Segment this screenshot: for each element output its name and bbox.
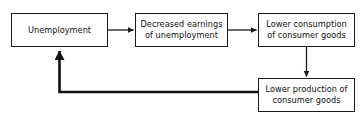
flowchart-diagram: Unemployment Decreased earnings of unemp… <box>0 0 361 118</box>
node-lower-consumption: Lower consumption of consumer goods <box>258 13 355 47</box>
edge-lower-production-to-unemployment <box>60 51 259 92</box>
node-unemployment-label: Unemployment <box>25 25 94 36</box>
node-lower-production-label: Lower production of consumer goods <box>263 84 351 106</box>
node-lower-consumption-label: Lower consumption of consumer goods <box>263 19 349 41</box>
node-unemployment: Unemployment <box>11 13 108 47</box>
node-lower-production: Lower production of consumer goods <box>258 78 355 112</box>
node-decreased-earnings-label: Decreased earnings of unemployment <box>138 19 226 41</box>
node-decreased-earnings: Decreased earnings of unemployment <box>135 13 228 47</box>
